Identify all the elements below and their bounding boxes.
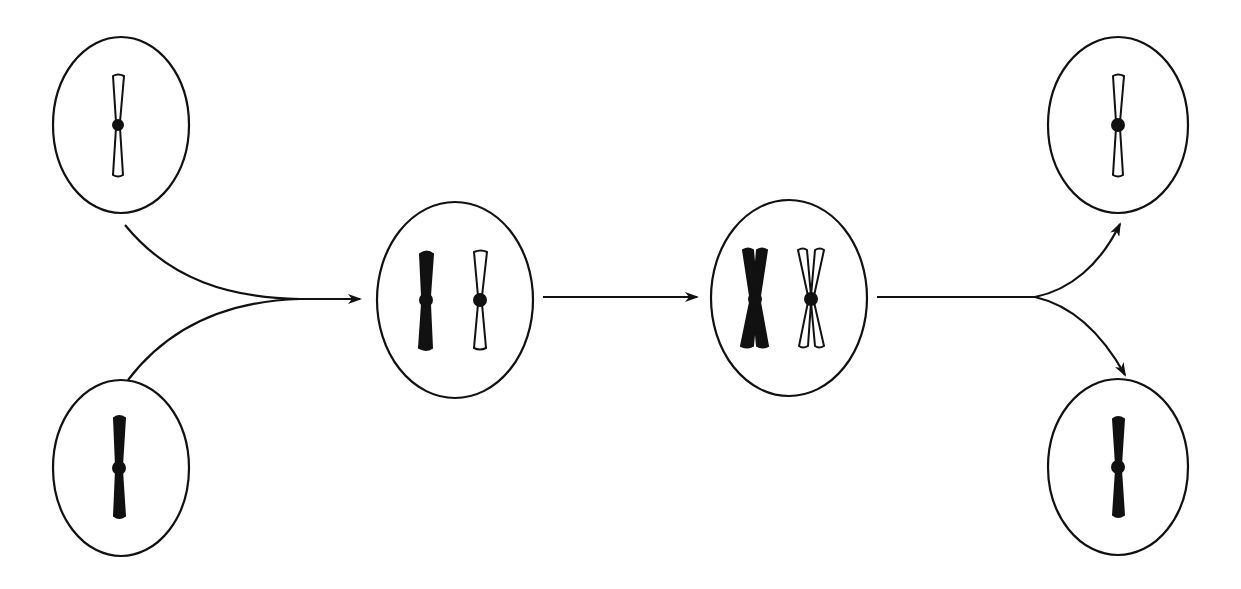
chromosome-dark-replicated [741, 249, 768, 348]
arrow-split-up [1035, 224, 1120, 297]
chromosome-dark-gamete [1112, 417, 1124, 517]
arrow-split-down [1035, 297, 1125, 375]
chromosome-dark-parent [113, 416, 125, 518]
chromosome-diagram [0, 0, 1241, 589]
cell-zygote [377, 202, 533, 398]
chromosome-dark-zygote [419, 252, 433, 351]
chromosome-light-zygote [474, 251, 487, 350]
arrow-merge-bottom [128, 299, 300, 380]
chromosome-light-parent [113, 75, 124, 177]
arrow-merge-top [125, 225, 300, 299]
diagram-canvas [0, 0, 1241, 589]
chromosome-light-gamete [1112, 75, 1124, 177]
cell-replicated [711, 200, 867, 396]
chromosome-light-replicated [798, 249, 824, 348]
